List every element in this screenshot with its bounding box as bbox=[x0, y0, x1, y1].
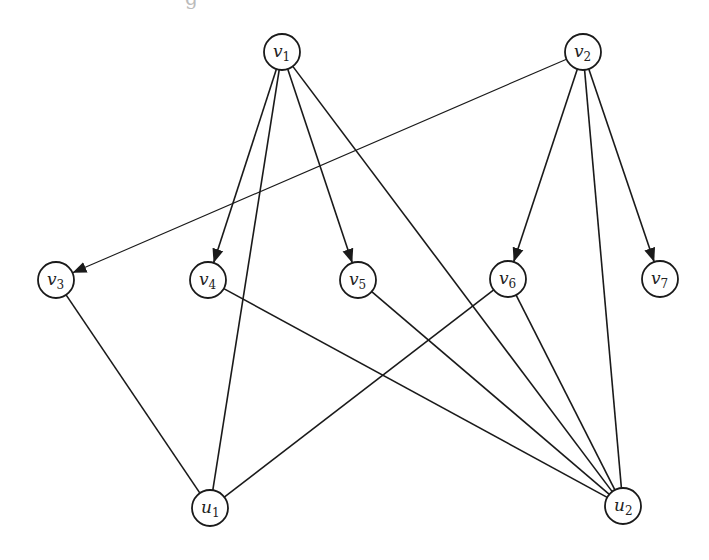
edge-v2-v3-arrow bbox=[73, 59, 567, 273]
edge-v2-v6-arrow bbox=[514, 69, 578, 262]
node-v5: v5 bbox=[340, 262, 376, 298]
edge-v6-u2 bbox=[516, 295, 615, 490]
node-u1: u1 bbox=[192, 490, 228, 526]
edge-v1-v4-arrow bbox=[214, 69, 277, 263]
node-v4: v4 bbox=[190, 262, 226, 298]
node-v3: v3 bbox=[38, 262, 74, 298]
edge-v2-u2 bbox=[585, 70, 622, 488]
edge-v5-u2 bbox=[372, 292, 610, 495]
node-v1: v1 bbox=[264, 34, 300, 70]
node-u2: u2 bbox=[605, 488, 641, 524]
node-v7: v7 bbox=[642, 261, 678, 297]
edge-v6-u1 bbox=[224, 290, 493, 497]
graph-diagram: v1v2v3v4v5v6v7u1u2 bbox=[0, 0, 709, 560]
node-v2: v2 bbox=[565, 34, 601, 70]
node-v6: v6 bbox=[490, 261, 526, 297]
edge-v4-u2 bbox=[224, 289, 607, 498]
edge-v3-u1 bbox=[66, 295, 200, 493]
